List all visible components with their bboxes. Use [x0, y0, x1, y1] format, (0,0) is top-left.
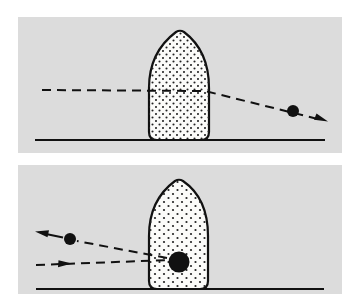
particle-top: [287, 105, 299, 117]
panel-top: [18, 17, 342, 153]
nucleus-particle: [169, 252, 190, 273]
scattered-particle: [64, 233, 76, 245]
panel-bottom: [18, 165, 342, 294]
scattering-diagram: [0, 0, 362, 307]
